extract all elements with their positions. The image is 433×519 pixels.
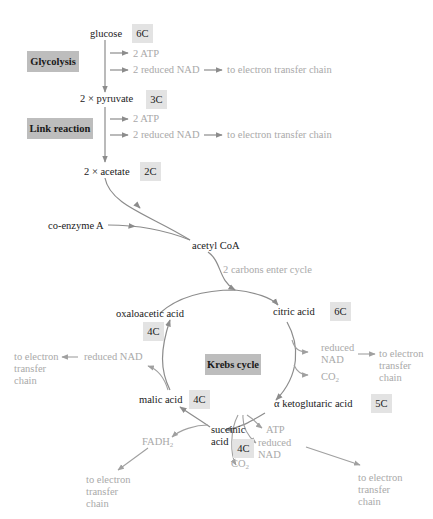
stage-krebs-cycle: Krebs cycle (205, 354, 261, 375)
arrow-keto-etc (306, 447, 360, 465)
carbon-count-citric-acid: 6C (330, 302, 351, 321)
product-citric-etc: to electron transfer chain (379, 348, 424, 384)
carbon-count-ketoglutaric-acid: 5C (371, 394, 392, 413)
molecule-ketoglutaric-acid: α ketoglutaric acid (274, 398, 352, 410)
product-glycolysis-atp: 2 ATP (133, 48, 159, 60)
arrow-acetate-acetylcoa (105, 178, 190, 240)
molecule-acetate: 2 × acetate (84, 166, 130, 178)
product-malic-nad: reduced NAD (84, 351, 143, 363)
product-glycolysis-etc: to electron transfer chain (227, 64, 332, 76)
carbon-count-pyruvate: 3C (146, 90, 167, 109)
product-keto-co2: CO2 (231, 458, 249, 473)
product-citric-co2: CO2 (321, 371, 339, 386)
annotation-carbons-enter: 2 carbons enter cycle (223, 264, 312, 276)
molecule-oxaloacetic-acid: oxaloacetic acid (116, 308, 184, 320)
product-succinic-etc: to electron transfer chain (86, 474, 131, 510)
arrow-fadh-etc (118, 448, 148, 470)
carbon-count-glucose: 6C (132, 24, 153, 43)
carbon-count-acetate: 2C (140, 162, 161, 181)
product-malic-etc: to electron transfer chain (14, 351, 59, 387)
product-link-atp: 2 ATP (133, 113, 159, 125)
carbon-count-malic-acid: 4C (189, 390, 210, 409)
product-citric-nad: reduced NAD (321, 342, 354, 366)
molecule-citric-acid: citric acid (273, 306, 315, 318)
product-link-etc: to electron transfer chain (227, 129, 332, 141)
molecule-acetyl-coa: acetyl CoA (192, 240, 240, 252)
product-keto-atp: ATP (266, 424, 285, 436)
stage-link-reaction: Link reaction (27, 118, 93, 139)
product-keto-nad: reduced NAD (258, 437, 291, 461)
molecule-pyruvate: 2 × pyruvate (80, 93, 133, 105)
stage-glycolysis: Glycolysis (27, 51, 79, 72)
product-glycolysis-nad: 2 reduced NAD (133, 64, 199, 76)
arrow-citric-co2 (294, 365, 308, 375)
product-link-nad: 2 reduced NAD (133, 129, 199, 141)
product-succinic-fadh: FADH2 (142, 436, 173, 451)
molecule-coenzyme-a: co-enzyme A (48, 220, 104, 232)
molecule-malic-acid: malic acid (139, 394, 182, 406)
molecule-glucose: glucose (90, 28, 122, 40)
arrow-succinic-malic (180, 407, 210, 427)
carbon-count-oxaloacetic-acid: 4C (143, 322, 164, 341)
arrow-succinic-fadh (172, 425, 208, 437)
arrow-citric-ketoglutaric (276, 322, 296, 400)
product-keto-etc: to electron transfer chain (358, 472, 403, 508)
carbon-count-succinic-acid: 4C (233, 439, 254, 458)
